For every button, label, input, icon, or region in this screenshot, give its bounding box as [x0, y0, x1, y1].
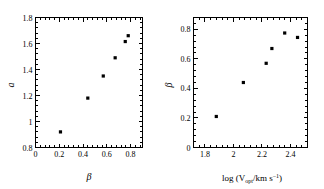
data-point [283, 31, 286, 34]
data-point [265, 62, 268, 65]
data-point [215, 115, 218, 118]
data-point [124, 40, 127, 43]
left-panel-y-axis-title: a [5, 83, 16, 88]
right-panel-axes-frame [194, 18, 308, 148]
left-panel: 00.20.40.60.8 0.811.21.41.61.8 β a [0, 0, 162, 189]
x-ticklabel: 0.4 [78, 150, 88, 159]
y-ticklabel: 1.4 [23, 66, 33, 75]
data-point [242, 81, 245, 84]
left-panel-axes-frame [36, 18, 143, 148]
data-point [86, 97, 89, 100]
right-panel-ticks [194, 18, 308, 148]
y-ticklabel: 0 [187, 144, 191, 153]
data-point [127, 34, 130, 37]
x-title-middle: /km s [253, 173, 273, 183]
left-panel-data-points [59, 34, 130, 133]
data-point [59, 130, 62, 133]
x-ticklabel: 0.6 [102, 150, 112, 159]
data-point [296, 36, 299, 39]
y-ticklabel: 0.2 [181, 114, 191, 123]
left-panel-x-ticklabels: 00.20.40.60.8 [34, 150, 136, 159]
y-ticklabel: 1.2 [23, 92, 33, 101]
right-panel-y-axis-title: β [163, 82, 174, 88]
x-ticklabel: 2.2 [257, 150, 267, 159]
left-panel-plot: 00.20.40.60.8 0.811.21.41.61.8 β a [0, 0, 162, 189]
y-ticklabel: 1.8 [23, 14, 33, 23]
two-panel-figure: 00.20.40.60.8 0.811.21.41.61.8 β a 1.822… [0, 0, 324, 189]
right-panel-plot: 1.822.22.4 00.20.40.60.8 log (Vopt/km s−… [162, 0, 324, 189]
x-title-suffix: ) [279, 173, 282, 183]
right-panel-x-axis-title: log (Vopt/km s−1) [222, 173, 282, 184]
right-panel-data-points [215, 31, 299, 118]
y-ticklabel: 1.6 [23, 40, 33, 49]
x-ticklabel: 0.2 [54, 150, 64, 159]
x-ticklabel: 0 [34, 150, 38, 159]
y-ticklabel: 0.8 [23, 144, 33, 153]
y-ticklabel: 0.8 [181, 25, 191, 34]
x-ticklabel: 0.8 [126, 150, 136, 159]
left-panel-x-axis-title: β [86, 171, 92, 182]
right-panel-x-ticklabels: 1.822.22.4 [200, 150, 296, 159]
x-ticklabel: 2 [231, 150, 235, 159]
right-panel-y-ticklabels: 00.20.40.60.8 [181, 25, 191, 152]
x-ticklabel: 2.4 [285, 150, 295, 159]
x-title-prefix: log (V [222, 173, 246, 183]
x-ticklabel: 1.8 [200, 150, 210, 159]
y-ticklabel: 0.6 [181, 55, 191, 64]
data-point [270, 47, 273, 50]
y-ticklabel: 1 [29, 118, 33, 127]
left-panel-y-ticklabels: 0.811.21.41.61.8 [23, 14, 33, 153]
left-panel-ticks [36, 18, 143, 148]
y-ticklabel: 0.4 [181, 84, 191, 93]
right-panel: 1.822.22.4 00.20.40.60.8 log (Vopt/km s−… [162, 0, 324, 189]
data-point [102, 74, 105, 77]
data-point [114, 56, 117, 59]
